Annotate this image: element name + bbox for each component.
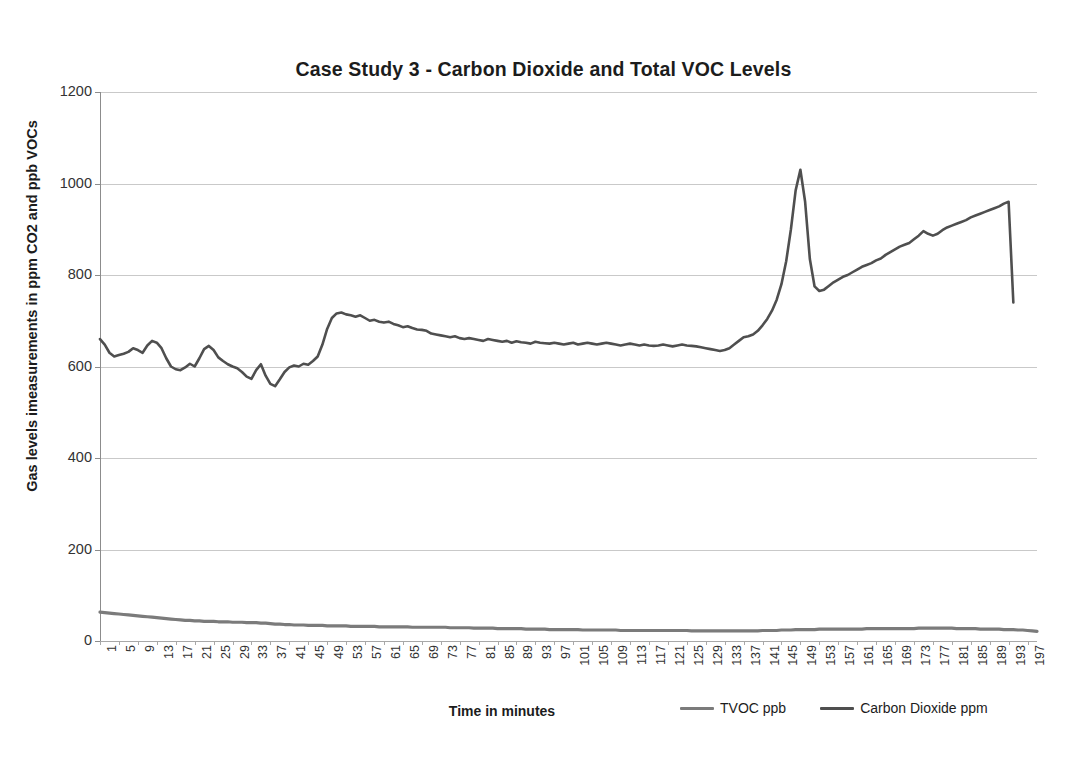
y-axis-tick [95, 458, 101, 459]
x-axis-tick-label: 5 [124, 645, 138, 652]
x-axis-tick-label: 33 [256, 645, 270, 659]
legend-item[interactable]: Carbon Dioxide ppm [820, 701, 988, 715]
y-axis-tick [95, 367, 101, 368]
x-axis-tick [668, 641, 669, 645]
x-axis-tick-label: 1 [105, 645, 119, 652]
y-axis-tick-labels: 020040060080010001200 [8, 92, 92, 641]
x-axis-tick-label: 145 [786, 645, 800, 666]
x-axis-tick-label: 97 [559, 645, 573, 659]
x-axis-tick-label: 153 [824, 645, 838, 666]
x-axis-tick [687, 641, 688, 645]
legend-item[interactable]: TVOC ppb [680, 701, 786, 715]
y-axis-tick [95, 550, 101, 551]
x-axis-tick-label: 157 [843, 645, 857, 666]
x-axis-tick [990, 641, 991, 645]
x-axis-tick [876, 641, 877, 645]
x-axis-tick [460, 641, 461, 645]
x-axis-tick [289, 641, 290, 645]
x-axis-tick-label: 77 [465, 645, 479, 659]
x-axis-tick-label: 113 [635, 645, 649, 665]
x-axis-tick [1009, 641, 1010, 645]
x-axis-tick [270, 641, 271, 645]
y-axis-tick [95, 275, 101, 276]
y-axis-tick [95, 184, 101, 185]
chart-title: Case Study 3 - Carbon Dioxide and Total … [0, 58, 1087, 81]
x-axis-tick-label: 93 [540, 645, 554, 659]
x-axis-tick [214, 641, 215, 645]
series-layer [100, 92, 1037, 641]
x-axis-tick-labels: 1591317212529333741454953576165697377818… [100, 645, 1037, 703]
x-axis-tick-label: 89 [521, 645, 535, 659]
x-axis-tick [195, 641, 196, 645]
x-axis-tick [914, 641, 915, 645]
x-axis-tick [384, 641, 385, 645]
x-axis-tick-label: 137 [749, 645, 763, 666]
x-axis-tick [649, 641, 650, 645]
x-axis-tick [119, 641, 120, 645]
x-axis-tick-label: 73 [446, 645, 460, 659]
x-axis-tick-label: 185 [976, 645, 990, 666]
x-axis-tick [763, 641, 764, 645]
x-axis-tick-label: 9 [143, 645, 157, 652]
series-line-tvoc [100, 612, 1037, 631]
x-axis-tick-label: 173 [919, 645, 933, 666]
x-axis-tick-label: 129 [711, 645, 725, 666]
x-axis-tick [346, 641, 347, 645]
x-axis-tick-label: 181 [957, 645, 971, 666]
x-axis-tick-label: 53 [351, 645, 365, 659]
legend-label: Carbon Dioxide ppm [860, 701, 988, 715]
x-axis-tick [403, 641, 404, 645]
x-axis-tick [781, 641, 782, 645]
gridline [100, 641, 1037, 642]
x-axis-tick-label: 197 [1033, 645, 1047, 666]
x-axis-tick [630, 641, 631, 645]
x-axis-tick-label: 169 [900, 645, 914, 666]
x-axis-tick [327, 641, 328, 645]
x-axis-tick [516, 641, 517, 645]
x-axis-tick [800, 641, 801, 645]
x-axis-tick-label: 21 [200, 645, 214, 659]
x-axis-tick [176, 641, 177, 645]
series-line-carbon-dioxide [100, 170, 1013, 386]
x-axis-tick-label: 61 [389, 645, 403, 659]
x-axis-tick-label: 37 [275, 645, 289, 659]
x-axis-tick [971, 641, 972, 645]
x-axis-tick [233, 641, 234, 645]
x-axis-tick [554, 641, 555, 645]
x-axis-tick-label: 141 [768, 645, 782, 666]
x-axis-tick [479, 641, 480, 645]
x-axis-tick [365, 641, 366, 645]
x-axis-tick-label: 57 [370, 645, 384, 659]
x-axis-tick-label: 105 [597, 645, 611, 666]
x-axis-tick-label: 13 [162, 645, 176, 659]
x-axis-tick-label: 17 [181, 645, 195, 659]
x-axis-tick-label: 133 [730, 645, 744, 666]
chart-legend: TVOC ppbCarbon Dioxide ppm [680, 701, 988, 715]
x-axis-tick-label: 149 [805, 645, 819, 666]
x-axis-tick [138, 641, 139, 645]
x-axis-tick-label: 49 [332, 645, 346, 659]
x-axis-tick-label: 45 [313, 645, 327, 659]
x-axis-tick-label: 121 [673, 645, 687, 666]
x-axis-tick-label: 69 [427, 645, 441, 659]
x-axis-tick-label: 65 [408, 645, 422, 659]
x-axis-tick-label: 29 [238, 645, 252, 659]
y-axis-title: Gas levels imeasurements in ppm CO2 and … [24, 46, 40, 566]
legend-swatch [680, 707, 714, 710]
x-axis-tick [308, 641, 309, 645]
x-axis-tick [251, 641, 252, 645]
x-axis-tick-label: 109 [616, 645, 630, 666]
x-axis-tick-label: 165 [881, 645, 895, 666]
x-axis-tick [838, 641, 839, 645]
y-axis-tick [95, 92, 101, 93]
x-axis-tick-label: 25 [219, 645, 233, 659]
x-axis-tick-label: 41 [294, 645, 308, 659]
plot-area [100, 92, 1037, 641]
y-axis-tick-label: 0 [22, 632, 92, 648]
x-axis-tick-label: 85 [503, 645, 517, 659]
x-axis-tick [441, 641, 442, 645]
legend-swatch [820, 707, 854, 710]
x-axis-tick [933, 641, 934, 645]
x-axis-tick [157, 641, 158, 645]
x-axis-tick [592, 641, 593, 645]
